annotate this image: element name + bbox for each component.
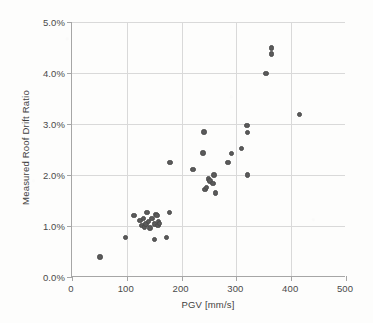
data-point [97, 254, 102, 259]
x-tick-label: 100 [118, 283, 134, 294]
plot-area [71, 22, 345, 277]
y-tick-label: 2.0% [43, 170, 65, 181]
y-tick-label: 5.0% [43, 17, 65, 28]
data-point [297, 112, 302, 117]
data-point [144, 210, 149, 215]
x-tick-label: 0 [68, 283, 73, 294]
data-point [204, 185, 209, 190]
gridline-horizontal [72, 73, 345, 74]
data-point [201, 129, 206, 134]
x-tick-label: 200 [173, 283, 189, 294]
data-point [229, 151, 234, 156]
data-point [213, 190, 218, 195]
y-tick-mark [67, 124, 72, 125]
y-tick-label: 4.0% [43, 68, 65, 79]
gridline-horizontal [72, 22, 345, 23]
x-axis-tick-labels: 0100200300400500 [71, 283, 345, 297]
data-point [190, 167, 195, 172]
data-point [269, 45, 274, 50]
x-axis-title: PGV [mm/s] [71, 299, 345, 310]
gridline-horizontal [72, 226, 345, 227]
x-tick-mark [127, 276, 128, 281]
data-point [167, 210, 172, 215]
x-tick-mark [72, 276, 73, 281]
data-point [154, 213, 159, 218]
data-point [131, 213, 136, 218]
x-tick-mark [182, 276, 183, 281]
data-point [269, 51, 274, 56]
gridline-vertical [182, 22, 183, 276]
scatter-chart: 0.0%1.0%2.0%3.0%4.0%5.0% 010020030040050… [0, 0, 373, 323]
y-tick-mark [67, 175, 72, 176]
x-tick-label: 400 [282, 283, 298, 294]
y-axis-tick-labels: 0.0%1.0%2.0%3.0%4.0%5.0% [28, 22, 65, 277]
data-point [245, 130, 250, 135]
y-tick-mark [67, 226, 72, 227]
data-point [239, 146, 244, 151]
gridline-horizontal [72, 124, 345, 125]
y-tick-mark [67, 73, 72, 74]
y-tick-label: 3.0% [43, 119, 65, 130]
data-point [263, 71, 268, 76]
x-tick-label: 300 [227, 283, 243, 294]
x-tick-label: 500 [337, 283, 353, 294]
x-tick-mark [346, 276, 347, 281]
data-point [210, 181, 215, 186]
data-point [167, 160, 172, 165]
data-point [200, 150, 205, 155]
y-axis-title: Measured Roof Drift Ratio [20, 53, 31, 243]
y-tick-mark [67, 22, 72, 23]
data-point [225, 160, 230, 165]
gridline-vertical [236, 22, 237, 276]
x-tick-mark [291, 276, 292, 281]
data-point [244, 123, 249, 128]
x-tick-mark [236, 276, 237, 281]
y-tick-label: 0.0% [43, 272, 65, 283]
data-point [164, 235, 169, 240]
data-point [152, 237, 157, 242]
data-point [211, 172, 216, 177]
data-point [245, 172, 250, 177]
gridline-vertical [291, 22, 292, 276]
y-tick-label: 1.0% [43, 221, 65, 232]
